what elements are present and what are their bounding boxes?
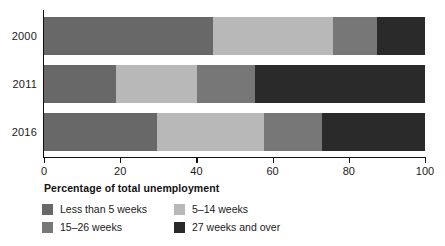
x-axis-tick-label: 0 — [41, 165, 47, 177]
legend-label: 27 weeks and over — [192, 222, 280, 233]
legend-row: Less than 5 weeks 5–14 weeks — [42, 200, 372, 218]
x-axis-tick-label: 40 — [190, 165, 202, 177]
bar-segment — [377, 17, 425, 55]
bar-segment — [264, 113, 322, 151]
x-axis-tick-label: 100 — [416, 165, 434, 177]
legend-swatch-icon — [174, 204, 185, 215]
bar-segment — [116, 65, 197, 103]
bar-segment — [255, 65, 425, 103]
bar-segment — [197, 65, 255, 103]
category-label-2000: 2000 — [0, 30, 37, 42]
x-axis-tick — [425, 157, 426, 163]
legend-item-15-26-weeks: 15–26 weeks — [42, 222, 174, 233]
legend-label: 15–26 weeks — [60, 222, 122, 233]
legend-label: Less than 5 weeks — [60, 204, 147, 215]
legend-item-less-than-5-weeks: Less than 5 weeks — [42, 204, 174, 215]
bar-row — [44, 17, 425, 55]
legend-item-27-weeks-and-over: 27 weeks and over — [174, 222, 364, 233]
legend-row: 15–26 weeks 27 weeks and over — [42, 218, 372, 236]
legend-item-5-14-weeks: 5–14 weeks — [174, 204, 364, 215]
legend-swatch-icon — [42, 222, 53, 233]
bar-row — [44, 65, 425, 103]
bar-segment — [157, 113, 264, 151]
x-axis-tick — [273, 157, 274, 163]
x-axis-tick — [120, 157, 121, 163]
x-axis-line — [43, 157, 426, 158]
category-label-2016: 2016 — [0, 126, 37, 138]
bar-segment — [213, 17, 333, 55]
legend-label: 5–14 weeks — [192, 204, 248, 215]
legend-swatch-icon — [42, 204, 53, 215]
x-axis-tick — [44, 157, 45, 163]
stacked-bar-chart: 2000 2011 2016 020406080100 Percentage o… — [0, 0, 445, 246]
bar-segment — [44, 113, 157, 151]
x-axis-title: Percentage of total unemployment — [44, 182, 219, 194]
x-axis-tick-label: 20 — [114, 165, 126, 177]
x-axis-tick — [196, 157, 197, 163]
bar-segment — [44, 65, 116, 103]
x-axis-tick-label: 60 — [266, 165, 278, 177]
chart-legend: Less than 5 weeks 5–14 weeks 15–26 weeks… — [42, 200, 372, 236]
x-axis-tick-label: 80 — [343, 165, 355, 177]
legend-swatch-icon — [174, 222, 185, 233]
bar-segment — [44, 17, 213, 55]
x-axis-tick — [349, 157, 350, 163]
bar-row — [44, 113, 425, 151]
category-label-2011: 2011 — [0, 78, 37, 90]
plot-area — [44, 14, 425, 155]
bar-segment — [333, 17, 377, 55]
bar-segment — [322, 113, 425, 151]
